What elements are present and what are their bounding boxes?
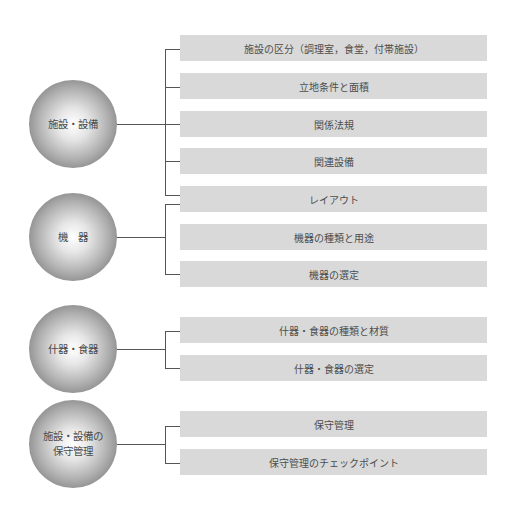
tick	[165, 426, 180, 427]
sphere-utensils: 什器・食器	[29, 305, 117, 393]
item-maintenance: 保守管理	[180, 411, 487, 437]
tick	[165, 195, 180, 196]
tick	[165, 204, 180, 205]
connector-maintenance	[117, 444, 165, 445]
item-layout: レイアウト	[180, 186, 487, 212]
item-utensil-selection: 什器・食器の選定	[180, 355, 487, 381]
item-utensil-types: 什器・食器の種類と材質	[180, 317, 487, 343]
connector-equipment	[117, 237, 165, 238]
item-related-equipment: 関連設備	[180, 148, 487, 174]
tick	[165, 161, 180, 162]
sphere-maintenance: 施設・設備の 保守管理	[29, 400, 117, 488]
tick	[165, 368, 180, 369]
bracket-utensils	[165, 331, 166, 368]
item-equipment-selection: 機器の選定	[180, 261, 487, 287]
tick	[165, 49, 180, 50]
tick	[165, 274, 180, 275]
connector-facilities	[117, 124, 165, 125]
item-location-area: 立地条件と面積	[180, 73, 487, 99]
item-equipment-types: 機器の種類と用途	[180, 224, 487, 250]
bracket-equipment	[165, 204, 166, 274]
bracket-facilities	[165, 49, 166, 195]
connector-utensils	[117, 349, 165, 350]
sphere-facilities: 施設・設備	[29, 80, 117, 168]
item-maintenance-checkpoints: 保守管理のチェックポイント	[180, 449, 487, 475]
tick	[165, 463, 180, 464]
sphere-equipment: 機 器	[29, 193, 117, 281]
tick	[165, 331, 180, 332]
item-related-laws: 関係法規	[180, 111, 487, 137]
item-facility-division: 施設の区分（調理室，食堂，付帯施設）	[180, 35, 487, 61]
bracket-maintenance	[165, 426, 166, 463]
tick	[165, 124, 180, 125]
tick	[165, 87, 180, 88]
